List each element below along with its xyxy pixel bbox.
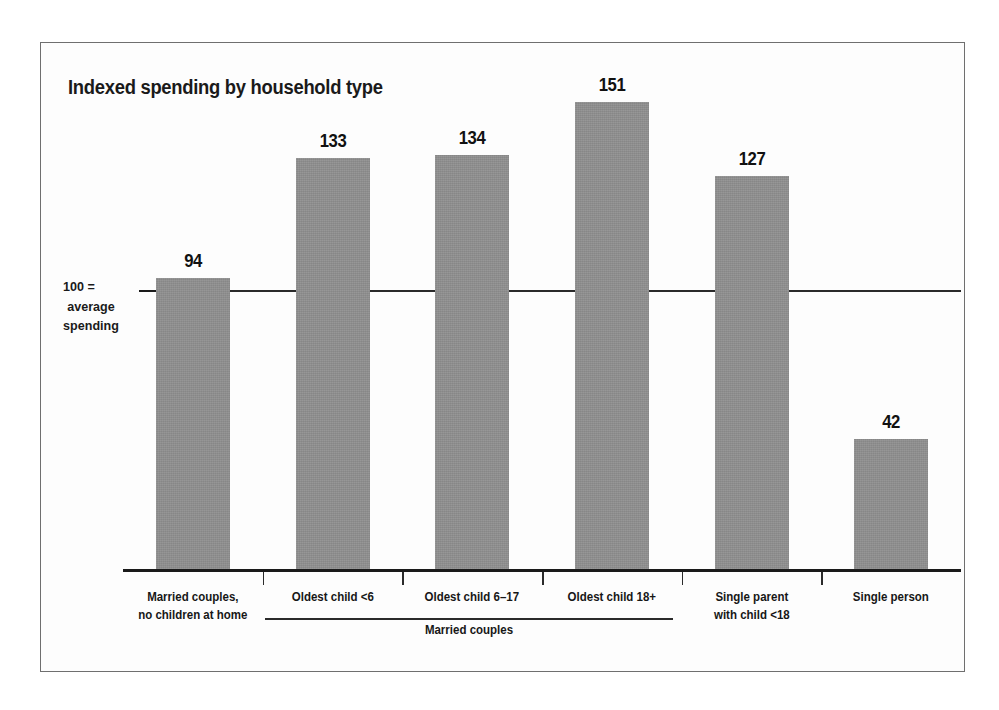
category-label-line: Oldest child 18+ [548, 589, 676, 607]
category-label-line: Oldest child <6 [268, 589, 396, 607]
value-label-2: 133 [297, 130, 367, 152]
category-label-line: Single parent [687, 589, 815, 607]
reference-line-100 [176, 290, 961, 292]
reference-note-line-1: 100 = [46, 277, 135, 297]
category-label-line: Married couples, [129, 589, 257, 607]
reference-line-dash [139, 290, 156, 292]
value-label-4: 151 [577, 74, 647, 96]
category-tick-1 [263, 572, 265, 585]
chart-plot-area: 100 = average spending 9413313415112742 … [41, 43, 966, 673]
reference-axis-note: 100 = average spending [46, 277, 135, 336]
category-label-5: Single parentwith child <18 [687, 589, 815, 625]
value-label-6: 42 [856, 411, 926, 433]
bar-2 [296, 158, 370, 569]
category-label-line: no children at home [129, 607, 257, 625]
value-label-3: 134 [437, 127, 507, 149]
group-bracket-line [265, 618, 673, 620]
figure-frame: Indexed spending by household type 100 =… [40, 42, 965, 672]
category-label-1: Married couples,no children at home [129, 589, 257, 625]
bar-6 [854, 439, 928, 569]
reference-note-line-2: average [46, 297, 135, 317]
bar-5 [715, 176, 789, 569]
category-label-3: Oldest child 6–17 [408, 589, 536, 607]
value-label-5: 127 [716, 148, 786, 170]
bar-4 [575, 102, 649, 569]
reference-note-line-3: spending [46, 316, 135, 336]
value-label-1: 94 [158, 250, 228, 272]
category-label-6: Single person [827, 589, 955, 607]
category-label-2: Oldest child <6 [268, 589, 396, 607]
category-label-line: Single person [827, 589, 955, 607]
category-tick-5 [821, 572, 823, 585]
category-tick-2 [402, 572, 404, 585]
bar-1 [156, 278, 230, 569]
category-tick-3 [542, 572, 544, 585]
category-label-4: Oldest child 18+ [548, 589, 676, 607]
category-tick-4 [682, 572, 684, 585]
bar-3 [435, 155, 509, 569]
group-bracket-label: Married couples [281, 623, 656, 637]
category-label-line: Oldest child 6–17 [408, 589, 536, 607]
category-label-line: with child <18 [687, 607, 815, 625]
